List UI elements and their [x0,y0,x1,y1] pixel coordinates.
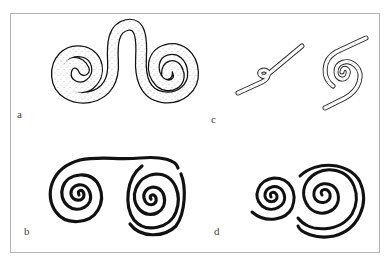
panel-label-a: a [17,109,22,120]
panel-d-small-spiral [252,178,294,219]
panel-label-c: c [211,114,216,125]
panel-b-right-spiral [128,166,184,235]
panel-b-motif [50,157,184,234]
panel-label-b: b [24,226,30,237]
panel-a-motif [57,25,193,98]
panel-label-d: d [214,226,220,237]
panel-c-motif [238,38,366,108]
panel-d-motif [252,165,364,237]
panel-d-large-spiral [298,165,364,237]
figure-artwork [0,0,391,264]
panel-c-coil-inner [325,38,366,108]
